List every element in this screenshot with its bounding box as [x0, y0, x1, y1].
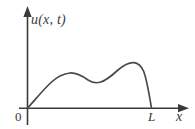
origin-label: 0 — [15, 110, 22, 123]
u-curve — [28, 63, 152, 109]
figure-container: u(x, t) 0 L x — [0, 0, 195, 129]
x-axis-tick-label-L: L — [148, 110, 155, 123]
x-axis-label: x — [176, 110, 182, 124]
y-axis-label: u(x, t) — [31, 13, 66, 27]
plot-canvas — [0, 0, 195, 129]
